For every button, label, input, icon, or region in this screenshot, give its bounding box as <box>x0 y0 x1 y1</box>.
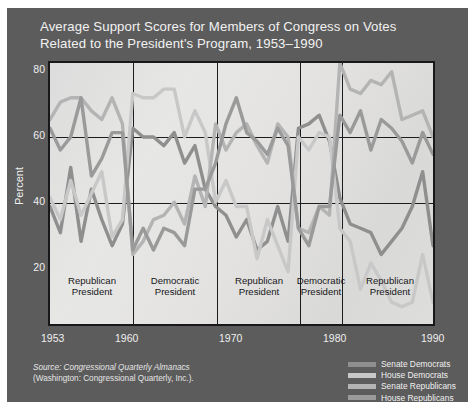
y-tick-60: 60 <box>19 129 45 141</box>
x-tick-1970: 1970 <box>219 332 242 344</box>
chart-title-line-2: Related to the President's Program, 1953… <box>40 35 460 52</box>
legend-item-house-republicans: House Republicans <box>348 392 458 403</box>
period-label-4-line2: President <box>370 286 411 297</box>
x-tick-1953: 1953 <box>41 332 64 344</box>
y-tick-20: 20 <box>19 261 45 273</box>
y-tick-80: 80 <box>19 63 45 75</box>
period-label-3-line1: Democratic <box>297 275 346 286</box>
source-note-line-1: Source: Congressional Quarterly Almanacs <box>33 363 194 374</box>
x-tick-1980: 1980 <box>323 332 346 344</box>
period-label-2-line2: President <box>239 286 280 297</box>
x-tick-1960: 1960 <box>115 332 138 344</box>
legend-swatch-house-democrats <box>348 373 376 378</box>
legend-item-house-democrats: House Democrats <box>348 370 458 381</box>
period-label-1-line2: President <box>155 286 196 297</box>
legend-item-senate-republicans: Senate Republicans <box>348 381 458 392</box>
legend-swatch-house-republicans <box>348 395 376 400</box>
period-label-3: Democratic President <box>281 276 361 297</box>
period-label-1-line1: Democratic <box>151 275 200 286</box>
legend-label-house-democrats: House Democrats <box>381 370 448 380</box>
period-label-0: Republican President <box>52 276 132 297</box>
x-tick-1990: 1990 <box>421 332 444 344</box>
source-note: Source: Congressional Quarterly Almanacs… <box>33 363 194 384</box>
plot-area: Republican President Democratic Presiden… <box>48 61 435 326</box>
chart-title: Average Support Scores for Members of Co… <box>40 18 460 52</box>
period-label-0-line2: President <box>72 286 113 297</box>
period-label-4: Republican President <box>350 276 430 297</box>
period-label-2-line1: Republican <box>235 275 283 286</box>
source-note-line-2: (Washington: Congressional Quarterly, In… <box>33 374 194 385</box>
legend-label-senate-republicans: Senate Republicans <box>381 381 456 391</box>
series-line-house-democrats <box>50 89 433 307</box>
period-label-4-line1: Republican <box>366 275 414 286</box>
legend-item-senate-democrats: Senate Democrats <box>348 359 458 370</box>
period-label-0-line1: Republican <box>68 275 116 286</box>
legend-swatch-senate-democrats <box>348 362 376 367</box>
chart-title-line-1: Average Support Scores for Members of Co… <box>40 18 460 35</box>
chart-figure: Average Support Scores for Members of Co… <box>7 8 468 402</box>
period-label-1: Democratic President <box>135 276 215 297</box>
legend-label-senate-democrats: Senate Democrats <box>381 359 450 369</box>
y-tick-40: 40 <box>19 195 45 207</box>
period-label-3-line2: President <box>301 286 342 297</box>
legend-label-house-republicans: House Republicans <box>381 393 454 403</box>
chart-legend: Senate Democrats House Democrats Senate … <box>348 356 458 406</box>
legend-swatch-senate-republicans <box>348 384 376 389</box>
